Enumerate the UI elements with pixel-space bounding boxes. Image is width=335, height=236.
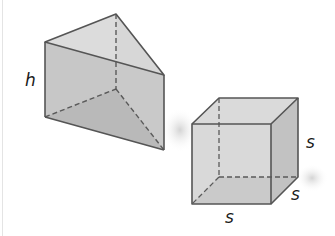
cube: s s s [192, 98, 315, 227]
cube-side-label-right: s [306, 132, 315, 152]
solids-diagram: h s s s [0, 0, 335, 236]
triangular-prism: h [25, 14, 164, 150]
prism-height-label: h [25, 70, 36, 90]
cube-side-label-depth: s [291, 184, 300, 204]
cube-side-label-bottom: s [225, 207, 234, 227]
figure-canvas: h s s s [0, 0, 335, 236]
cube-front-face [192, 124, 271, 204]
cube-shadow [296, 164, 328, 192]
